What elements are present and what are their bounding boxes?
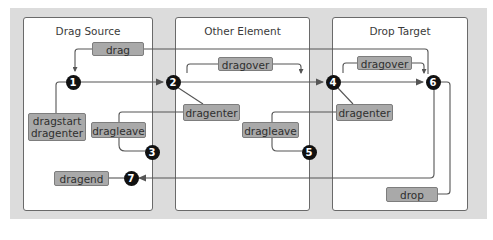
event-dragenter-label: dragenter — [29, 127, 85, 139]
step-4-marker: 4 — [326, 75, 341, 90]
event-dragenter-target: dragenter — [336, 104, 393, 121]
event-dragover-other: dragover — [218, 57, 273, 71]
event-dragstart-label: dragstart — [29, 115, 85, 127]
step-6-marker: 6 — [426, 75, 441, 90]
event-drag: drag — [92, 42, 144, 56]
event-dragend: dragend — [54, 171, 109, 186]
event-drop: drop — [386, 187, 438, 202]
step-2-marker: 2 — [166, 75, 181, 90]
step-1-marker: 1 — [66, 75, 81, 90]
event-dragenter-other: dragenter — [183, 104, 240, 121]
event-dragleave-source: dragleave — [91, 122, 146, 138]
event-dragstart-dragenter: dragstart dragenter — [28, 113, 86, 141]
event-dragover-target: dragover — [357, 56, 412, 70]
step-3-marker: 3 — [145, 145, 160, 160]
event-dragleave-other: dragleave — [242, 122, 299, 138]
step-7-marker: 7 — [124, 171, 139, 186]
step-5-marker: 5 — [302, 145, 317, 160]
